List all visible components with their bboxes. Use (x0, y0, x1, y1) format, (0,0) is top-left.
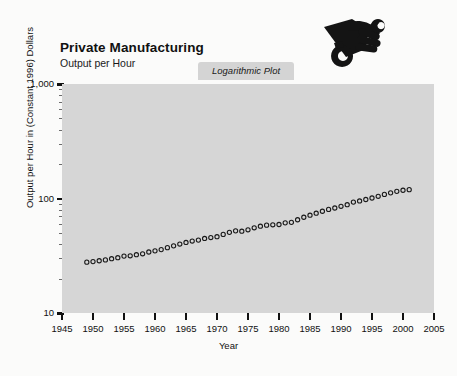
data-point (258, 224, 262, 228)
data-point (265, 223, 269, 227)
data-point (110, 257, 114, 261)
data-point (240, 229, 244, 233)
page-subtitle: Output per Hour (60, 57, 135, 69)
data-point (234, 229, 238, 233)
data-point (401, 188, 405, 192)
x-major-tick (154, 313, 156, 320)
data-point (103, 258, 107, 262)
y-tick-label: 100 (8, 193, 54, 204)
data-point (308, 213, 312, 217)
data-point (215, 235, 219, 239)
data-point (314, 211, 318, 215)
data-point (141, 252, 145, 256)
data-point (296, 218, 300, 222)
data-point (407, 188, 411, 192)
x-axis-title: Year (0, 340, 457, 351)
x-major-tick (309, 313, 311, 320)
x-major-tick (402, 313, 404, 320)
x-major-tick (61, 313, 63, 320)
x-major-tick (247, 313, 249, 320)
page-title: Private Manufacturing (60, 40, 204, 55)
data-point (382, 192, 386, 196)
data-point (376, 194, 380, 198)
data-point (339, 204, 343, 208)
x-major-tick (123, 313, 125, 320)
x-major-tick (185, 313, 187, 320)
data-point (277, 222, 281, 226)
data-point (190, 239, 194, 243)
data-point (327, 207, 331, 211)
data-point (252, 226, 256, 230)
data-point (165, 246, 169, 250)
x-major-tick (216, 313, 218, 320)
data-point (370, 196, 374, 200)
plot-area (62, 84, 434, 313)
data-point (153, 249, 157, 253)
data-point (345, 203, 349, 207)
data-point (172, 244, 176, 248)
data-point (97, 259, 101, 263)
data-point (209, 235, 213, 239)
hand-holding-wrench-icon (322, 13, 394, 71)
data-point (116, 256, 120, 260)
data-point (289, 220, 293, 224)
data-point (91, 260, 95, 264)
x-major-tick (433, 313, 435, 320)
x-major-tick (278, 313, 280, 320)
chart-page: Private Manufacturing Output per Hour Lo… (0, 0, 457, 376)
data-point (159, 247, 163, 251)
data-point (320, 209, 324, 213)
data-point (283, 221, 287, 225)
data-point (178, 242, 182, 246)
x-major-tick (340, 313, 342, 320)
data-point (333, 206, 337, 210)
data-point (395, 189, 399, 193)
data-point (351, 200, 355, 204)
logarithmic-plot-badge: Logarithmic Plot (198, 62, 294, 80)
data-point (227, 230, 231, 234)
data-point (203, 236, 207, 240)
y-tick-label: 1,000 (8, 78, 54, 89)
data-point (184, 240, 188, 244)
data-point (122, 254, 126, 258)
x-major-tick (371, 313, 373, 320)
y-tick-label: 10 (8, 307, 54, 318)
data-point (358, 199, 362, 203)
data-point (196, 238, 200, 242)
x-tick-label: 2005 (414, 323, 454, 334)
data-series-canvas (62, 84, 434, 313)
x-major-tick (92, 313, 94, 320)
data-point (85, 260, 89, 264)
data-point (147, 250, 151, 254)
data-point (246, 228, 250, 232)
data-point (134, 253, 138, 257)
data-point (128, 254, 132, 258)
data-point (364, 197, 368, 201)
data-point (271, 223, 275, 227)
data-point (302, 215, 306, 219)
data-point (221, 232, 225, 236)
data-point (389, 191, 393, 195)
